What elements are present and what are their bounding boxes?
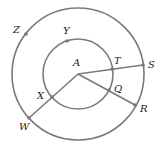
label-s: S	[148, 60, 155, 70]
label-a: A	[73, 58, 80, 68]
point-y	[65, 39, 69, 43]
concentric-circles-diagram: Z Y A T S Q R X W	[0, 0, 165, 144]
point-q	[107, 88, 111, 92]
point-w	[27, 116, 31, 120]
label-w: W	[19, 122, 29, 132]
point-z	[24, 32, 28, 36]
point-s	[141, 63, 145, 67]
segment-ar	[78, 74, 135, 105]
label-y: Y	[63, 26, 70, 36]
label-z: Z	[13, 25, 20, 35]
point-x	[50, 95, 54, 99]
label-r: R	[140, 104, 148, 114]
label-x: X	[37, 91, 44, 101]
label-t: T	[114, 56, 121, 66]
point-t	[110, 67, 114, 71]
label-q: Q	[114, 84, 122, 94]
point-r	[133, 103, 137, 107]
